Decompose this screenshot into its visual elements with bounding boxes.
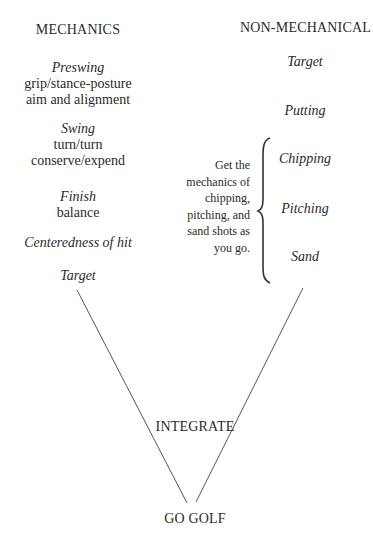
preswing-line-2: aim and alignment bbox=[0, 92, 156, 108]
bracket-note-line: sand shots as bbox=[186, 223, 250, 240]
preswing-line-1: grip/stance-posture bbox=[0, 76, 156, 92]
pitching: Pitching bbox=[250, 201, 360, 217]
bracket-note-line: mechanics of bbox=[186, 174, 250, 191]
sand: Sand bbox=[250, 249, 360, 265]
non-mechanical-heading: NON-MECHANICAL bbox=[238, 20, 373, 36]
left-target-title: Target bbox=[0, 268, 156, 284]
bracket-note: Get the mechanics of chipping, pitching,… bbox=[186, 157, 250, 256]
bracket-note-line: Get the bbox=[186, 157, 250, 174]
bracket-note-line: chipping, bbox=[186, 190, 250, 207]
swing-title: Swing bbox=[0, 121, 156, 137]
finish-title: Finish bbox=[0, 189, 156, 205]
right-converging-line bbox=[196, 288, 303, 502]
right-target: Target bbox=[250, 54, 360, 70]
preswing-title: Preswing bbox=[0, 60, 156, 76]
swing-line-2: conserve/expend bbox=[0, 153, 156, 169]
finish-line-1: balance bbox=[0, 205, 156, 221]
chipping: Chipping bbox=[250, 151, 360, 167]
left-converging-line bbox=[77, 290, 187, 503]
bracket-note-line: pitching, and bbox=[186, 207, 250, 224]
bracket-note-line: you go. bbox=[186, 240, 250, 257]
centeredness-title: Centeredness of hit bbox=[0, 235, 156, 251]
go-golf-label: GO GOLF bbox=[150, 511, 240, 527]
swing-line-1: turn/turn bbox=[0, 137, 156, 153]
mechanics-heading: MECHANICS bbox=[0, 22, 156, 38]
integrate-label: INTEGRATE bbox=[150, 419, 240, 435]
putting: Putting bbox=[250, 103, 360, 119]
